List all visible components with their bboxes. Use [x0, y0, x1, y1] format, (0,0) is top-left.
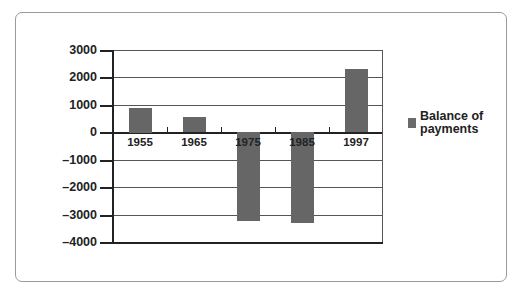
x-tick-label: 1985	[275, 136, 329, 149]
y-tick-label: –4000	[37, 235, 97, 249]
y-tick-label: 0	[37, 125, 97, 139]
x-tick	[221, 127, 222, 133]
gridline	[113, 77, 383, 78]
y-tick-label: –2000	[37, 180, 97, 194]
legend-line-2: payments	[420, 123, 505, 136]
bar-1965	[183, 117, 206, 132]
gridline	[113, 242, 383, 244]
x-tick	[167, 127, 168, 133]
y-tick-label: –1000	[37, 153, 97, 167]
y-tick-label: 3000	[37, 43, 97, 57]
x-tick	[329, 127, 330, 133]
legend-label: Balance of payments	[420, 110, 505, 136]
x-tick	[275, 127, 276, 133]
bar-1997	[345, 69, 368, 132]
y-axis	[112, 50, 114, 243]
plot-border-right	[382, 50, 383, 242]
legend-swatch	[408, 118, 416, 128]
y-tick-label: 1000	[37, 98, 97, 112]
x-tick-label: 1975	[221, 136, 275, 149]
x-tick-label: 1965	[167, 136, 221, 149]
gridline	[113, 50, 383, 51]
x-tick-label: 1955	[113, 136, 167, 149]
y-tick-label: 2000	[37, 70, 97, 84]
bar-1955	[129, 108, 152, 133]
y-tick-label: –3000	[37, 208, 97, 222]
x-tick-label: 1997	[329, 136, 383, 149]
gridline	[113, 105, 383, 106]
